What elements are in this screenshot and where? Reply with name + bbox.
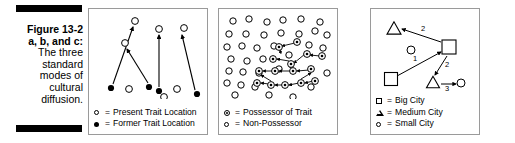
possessor-marker: [304, 51, 311, 58]
caption-rule-top: [16, 5, 82, 12]
medium-city-marker: [387, 22, 401, 34]
figure-label: Figure 13-2: [14, 24, 83, 36]
legend-item-big-city: = Big City: [376, 95, 443, 107]
non-possessor-marker: [243, 31, 249, 37]
panel-a-legend: = Present Trait Location = Former Trait …: [94, 107, 197, 130]
legend-item-medium-city: = Medium City: [376, 107, 443, 119]
arrow-order-label: 3: [445, 84, 449, 93]
non-possessor-marker: [240, 69, 246, 75]
panel-b-plot: [219, 9, 337, 99]
non-possessor-marker: [266, 92, 272, 98]
possessor-marker: [312, 78, 319, 85]
non-possessor-marker: [324, 70, 330, 76]
figure-caption-text: Figure 13-2 a, b, and c: The three stand…: [14, 24, 83, 105]
contagious-arrow: [301, 73, 311, 79]
possessor-markers: [254, 39, 326, 89]
arrow-order-label: 2: [445, 60, 449, 69]
contagious-arrow: [282, 43, 295, 46]
open-circle-icon: [224, 122, 235, 127]
present-trait-marker: [161, 94, 168, 99]
non-possessor-marker: [224, 44, 230, 50]
legend-label-non-possessor: Non-Possessor: [243, 118, 302, 130]
non-possessor-marker: [286, 52, 292, 58]
possessor-circle-icon: [224, 110, 235, 116]
non-possessor-marker: [260, 56, 266, 62]
possessor-marker: [298, 80, 305, 87]
legend-label-big-city: Big City: [395, 95, 425, 107]
contagious-arrow: [277, 59, 289, 61]
contagious-arrow: [297, 70, 309, 71]
arrow-order-label: 1: [413, 54, 417, 63]
legend-equals: =: [105, 118, 110, 130]
hierarchical-diagram: 2123: [371, 9, 479, 99]
legend-item-non-possessor: = Non-Possessor: [224, 118, 312, 130]
panel-relocation-diffusion: = Present Trait Location = Former Trait …: [88, 8, 208, 135]
legend-label-possessor: Possessor of Trait: [243, 107, 312, 119]
possessor-marker: [290, 68, 297, 75]
non-possessor-marker: [232, 92, 238, 98]
small-city-marker: [407, 46, 415, 54]
legend-label-medium-city: Medium City: [395, 107, 443, 119]
small-city-marker: [457, 79, 465, 87]
figure-container: Figure 13-2 a, b, and c: The three stand…: [0, 0, 515, 143]
legend-label-small-city: Small City: [395, 118, 434, 130]
legend-item-former-trait: = Former Trait Location: [94, 118, 197, 130]
former-trait-marker: [156, 88, 162, 94]
caption-line-5: diffusion.: [14, 94, 83, 106]
caption-rule-bottom: [16, 125, 82, 132]
non-possessor-marker: [308, 84, 314, 90]
former-trait-marker: [146, 84, 152, 90]
caption-line-4: cultural: [14, 82, 83, 94]
non-possessor-marker: [254, 45, 260, 51]
non-possessor-marker: [296, 31, 302, 37]
legend-item-small-city: = Small City: [376, 118, 443, 130]
possessor-marker: [276, 44, 283, 51]
legend-equals: =: [235, 107, 240, 119]
contagious-arrow: [261, 75, 271, 81]
non-possessor-marker: [298, 16, 304, 22]
panel-c-legend: = Big City = Medium City = Small City: [376, 95, 443, 130]
possessor-marker: [288, 61, 295, 68]
former-trait-marker: [194, 91, 200, 97]
present-trait-marker: [122, 40, 129, 47]
triangle-icon: [376, 110, 387, 116]
non-possessor-marker: [226, 68, 232, 74]
present-trait-marker: [126, 86, 133, 93]
hierarchical-arrows: [397, 29, 456, 84]
non-possessor-marker: [261, 32, 267, 38]
panel-a-plot: [89, 9, 207, 99]
possessor-marker: [268, 82, 275, 89]
former-trait-marker: [108, 85, 114, 91]
legend-item-present-trait: = Present Trait Location: [94, 107, 197, 119]
big-city-marker: [385, 73, 398, 86]
legend-equals: =: [235, 118, 240, 130]
panel-c-plot: 2123: [371, 9, 479, 99]
hierarchical-arrow: [397, 52, 441, 76]
contagious-diagram: [219, 9, 337, 99]
non-possessor-marker: [238, 82, 244, 88]
non-possessor-marker: [280, 17, 286, 23]
possessor-marker: [282, 82, 289, 89]
possessor-marker: [319, 53, 326, 60]
possessor-marker: [270, 56, 277, 63]
relocation-arrow: [127, 49, 148, 83]
medium-city-marker: [427, 76, 440, 87]
non-possessor-marker: [290, 94, 296, 99]
relocation-arrow: [113, 27, 133, 84]
relocation-diagram: [89, 9, 207, 99]
open-circle-icon: [94, 110, 105, 115]
square-icon: [376, 98, 387, 104]
legend-equals: =: [387, 118, 392, 130]
possessor-marker: [272, 68, 279, 75]
non-possessor-marker: [239, 43, 245, 49]
non-possessor-marker: [278, 30, 284, 36]
filled-circle-icon: [94, 122, 105, 127]
possessor-marker: [308, 66, 315, 73]
legend-label-former-trait: Former Trait Location: [113, 118, 195, 130]
figure-caption-block: Figure 13-2 a, b, and c: The three stand…: [14, 0, 84, 143]
possessor-marker: [254, 80, 261, 87]
possessor-marker: [294, 39, 301, 46]
non-possessor-marker: [226, 31, 232, 37]
relocation-arrows: [113, 27, 195, 90]
legend-equals: =: [105, 107, 110, 119]
